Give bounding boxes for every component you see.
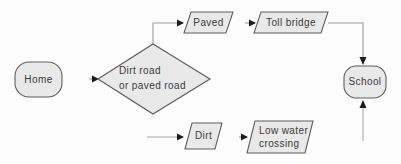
node-low-water-crossing-label: Low water crossing <box>259 124 308 150</box>
node-toll-bridge-label: Toll bridge <box>254 12 328 33</box>
arrowhead <box>177 134 184 141</box>
node-dirt-label: Dirt <box>185 123 222 149</box>
edge-tollbridge-school <box>328 23 367 65</box>
node-school-label: School <box>344 66 386 98</box>
arrowhead <box>177 20 184 27</box>
arrowhead <box>360 57 367 65</box>
arrowhead <box>360 100 367 108</box>
arrowhead <box>241 134 248 141</box>
edge-decision-paved <box>153 20 184 45</box>
edge-lowwater-school <box>360 100 367 141</box>
node-decision-label: Dirt road or paved road <box>119 64 186 93</box>
edge-dirt-lowwater <box>239 134 248 141</box>
node-paved-label: Paved <box>184 12 233 33</box>
flowchart-canvas: Home Dirt road or paved road Paved Toll … <box>0 0 401 164</box>
node-home-label: Home <box>15 62 62 97</box>
edge-decision-dirt <box>147 134 184 141</box>
